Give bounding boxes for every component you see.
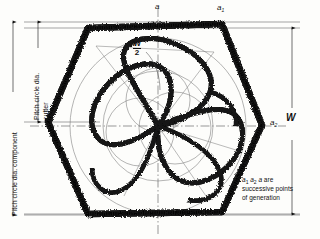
label-pitch-circle-cutter-line2: cutter: [42, 102, 51, 120]
note-line-1: a1 a2 a are: [242, 176, 293, 185]
note-line-1-tail: are: [262, 176, 273, 183]
label-apex-a2: a2: [270, 118, 277, 128]
label-half-width: W 2: [133, 40, 141, 57]
label-half-width-denominator: 2: [133, 49, 141, 57]
label-apex-a1-sub: 1: [221, 7, 224, 13]
label-apex-a: a: [155, 2, 159, 12]
label-apex-a1: a1: [217, 3, 224, 13]
note-a2-sub: 2: [254, 179, 257, 185]
label-half-width-numerator: W: [133, 40, 141, 48]
label-apex-a2-sub: 2: [274, 122, 277, 128]
note-line-2: successive points: [242, 185, 293, 194]
note-generation: a1 a2 a are successive points of generat…: [242, 176, 293, 202]
construction-circle-left: [106, 98, 174, 166]
label-width-w: W: [286, 112, 295, 125]
label-pitch-circle-cutter-line1: Pitch circle dia.: [33, 73, 42, 120]
figure-canvas: a a1 a2 W W 2 Pitch circle dia. componen…: [0, 0, 320, 239]
note-line-3: of generation: [242, 194, 293, 203]
note-a1-sub: 1: [246, 179, 249, 185]
label-pitch-circle-component: Pitch circle dia. component: [11, 132, 20, 216]
